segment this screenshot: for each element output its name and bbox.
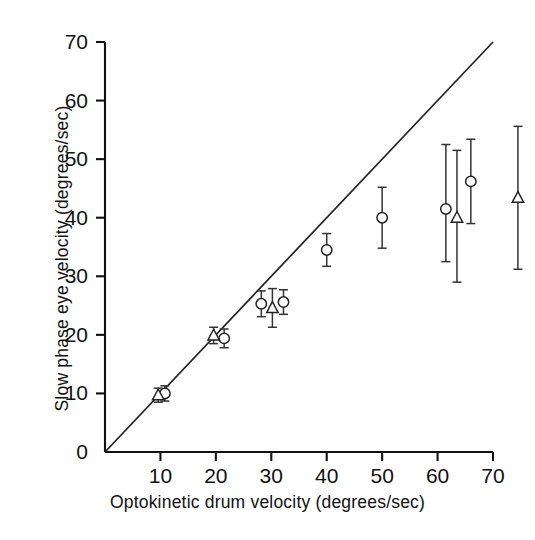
x-tick-label: 10 xyxy=(149,464,172,487)
figure-container: 01020304050607010203040506070 Slow phase… xyxy=(0,0,535,540)
y-tick-label: 0 xyxy=(76,440,88,463)
data-point xyxy=(219,329,229,348)
marker-open-circle xyxy=(278,297,288,307)
marker-open-triangle xyxy=(451,212,462,223)
marker-open-triangle xyxy=(512,192,523,203)
marker-open-circle xyxy=(256,299,266,309)
data-point xyxy=(267,289,278,328)
marker-open-circle xyxy=(441,204,451,214)
x-tick-label: 50 xyxy=(370,464,393,487)
x-axis-title: Optokinetic drum velocity (degrees/sec) xyxy=(0,492,535,513)
marker-open-circle xyxy=(377,213,387,223)
data-point xyxy=(466,139,476,223)
data-point xyxy=(256,291,266,317)
data-point xyxy=(377,187,387,248)
marker-open-triangle xyxy=(208,329,219,340)
data-point xyxy=(441,145,451,262)
scatter-plot: 01020304050607010203040506070 xyxy=(0,0,535,540)
data-point xyxy=(322,234,332,267)
marker-open-circle xyxy=(322,245,332,255)
data-point xyxy=(451,150,462,282)
x-tick-label: 60 xyxy=(426,464,449,487)
series-open-circle xyxy=(160,139,476,401)
x-tick-label: 40 xyxy=(315,464,338,487)
data-point xyxy=(278,290,288,315)
marker-open-circle xyxy=(219,333,229,343)
x-tick-label: 70 xyxy=(481,464,504,487)
data-point xyxy=(512,126,523,269)
marker-open-triangle xyxy=(267,302,278,313)
x-tick-label: 20 xyxy=(204,464,227,487)
marker-open-circle xyxy=(466,176,476,186)
x-tick-label: 30 xyxy=(260,464,283,487)
series-open-triangle xyxy=(153,126,524,402)
y-axis-title: Slow phase eye velocity (degrees/sec) xyxy=(52,49,73,469)
